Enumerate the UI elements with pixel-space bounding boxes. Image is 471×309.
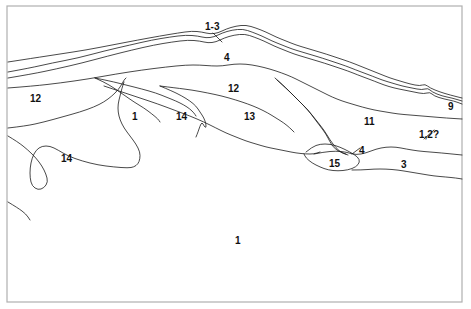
- contact-line-left-fold-upper: [8, 78, 126, 128]
- unit-label-15: 15: [329, 159, 340, 169]
- contact-line-wedge-2-top: [160, 86, 294, 132]
- unit-label-14-left: 14: [61, 154, 72, 164]
- unit-label-1-mid: 1: [132, 112, 138, 122]
- unit-label-1-bottom: 1: [235, 236, 241, 246]
- unit-label-13: 13: [244, 112, 255, 122]
- geological-contact-lines: [8, 25, 462, 220]
- unit-label-1-3: 1-3: [205, 22, 219, 32]
- unit-label-12-mid: 12: [228, 84, 239, 94]
- label-leader-lines: [213, 33, 434, 154]
- contact-line-bottom-left-tail: [8, 202, 30, 220]
- contact-line-left-hook: [8, 82, 140, 189]
- unit-label-4-top: 4: [224, 53, 230, 63]
- contact-line-thrust-15-top2: [277, 80, 348, 155]
- contact-line-wedge-1: [95, 78, 160, 122]
- unit-label-1-2q: 1,2?: [419, 130, 439, 140]
- contact-line-thrust-15-top: [275, 78, 346, 154]
- unit-label-3: 3: [401, 160, 407, 170]
- cross-section-figure: 1-341212911413111,2?4141531: [0, 0, 471, 309]
- unit-label-14-mid: 14: [176, 112, 187, 122]
- unit-label-4-mid: 4: [359, 146, 365, 156]
- figure-frame: [7, 6, 462, 302]
- leader-line-1-3: [213, 33, 222, 42]
- contact-line-lower-right-contact2: [352, 169, 462, 179]
- unit-label-9: 9: [448, 102, 454, 112]
- unit-label-12-left: 12: [30, 94, 41, 104]
- unit-label-11: 11: [364, 117, 375, 127]
